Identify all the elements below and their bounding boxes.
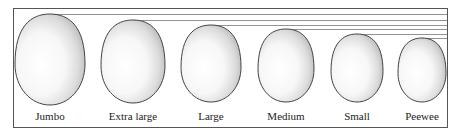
eggs-group bbox=[15, 14, 446, 105]
egg-jumbo bbox=[15, 14, 85, 105]
egg-large bbox=[181, 25, 241, 102]
egg-size-diagram: Jumbo Extra large Large Medium Small Pee… bbox=[0, 0, 460, 132]
egg-label-large: Large bbox=[198, 110, 224, 122]
egg-labels: Jumbo Extra large Large Medium Small Pee… bbox=[35, 110, 439, 122]
egg-label-small: Small bbox=[344, 110, 370, 122]
egg-label-peewee: Peewee bbox=[405, 110, 439, 122]
egg-label-jumbo: Jumbo bbox=[35, 110, 65, 122]
egg-medium bbox=[258, 29, 314, 102]
egg-label-extra-large: Extra large bbox=[109, 110, 157, 122]
egg-size-svg: Jumbo Extra large Large Medium Small Pee… bbox=[0, 0, 460, 132]
egg-extra-large bbox=[101, 20, 165, 103]
egg-peewee bbox=[398, 38, 446, 102]
egg-small bbox=[331, 34, 383, 102]
egg-label-medium: Medium bbox=[267, 110, 305, 122]
